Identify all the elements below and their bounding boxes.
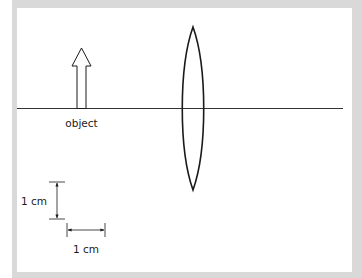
scale-horizontal-label: 1 cm	[73, 243, 99, 255]
object-arrow-icon	[72, 48, 91, 109]
lens-diagram: object 1 cm 1 cm	[0, 0, 362, 278]
object-label: object	[65, 117, 97, 129]
scale-bar-vertical	[49, 182, 65, 219]
scale-bar-horizontal	[67, 223, 105, 237]
scale-vertical-label: 1 cm	[21, 195, 47, 207]
